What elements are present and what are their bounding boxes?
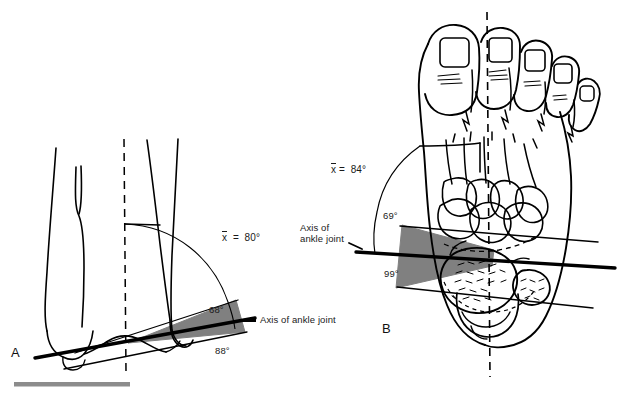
panel-b-axis-label-line1: Axis of (300, 222, 344, 233)
panel-a-max-angle-label: 88° (215, 345, 230, 356)
panel-b-min-angle-label: 69° (383, 210, 398, 221)
panel-a-mean-symbol: x (222, 232, 227, 243)
panel-a-letter: A (11, 345, 20, 360)
panel-b-axis-of-ankle-joint-label: Axis of ankle joint (300, 222, 344, 244)
panel-a-scale-bar (14, 382, 130, 387)
panel-b-axis-label-line2: ankle joint (300, 233, 344, 244)
panel-b-max-angle-label: 99° (384, 268, 399, 279)
panel-a-axis-of-ankle-joint-label: Axis of ankle joint (260, 314, 336, 325)
panel-a-mean-angle-label: x = 80° (222, 232, 260, 243)
ankle-axis-figure (0, 0, 618, 398)
panel-b-mean-symbol: x (331, 164, 336, 175)
panel-a-min-angle-label: 68° (209, 304, 224, 315)
panel-b-mean-value: = 84° (336, 164, 366, 175)
panel-b-mean-angle-label: x = 84° (331, 164, 366, 175)
figure-caption (36, 390, 611, 398)
panel-a-mean-value: = 80° (230, 232, 260, 243)
panel-b-letter: B (382, 321, 391, 336)
